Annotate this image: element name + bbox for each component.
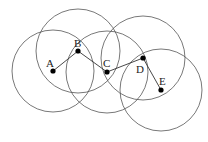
edge-a-b [53, 51, 78, 71]
node-e [158, 87, 163, 92]
node-a [50, 68, 55, 73]
node-b [75, 48, 80, 53]
node-label-c: C [103, 57, 110, 69]
node-label-e: E [159, 75, 166, 87]
node-label-a: A [46, 57, 54, 69]
node-d [140, 55, 145, 60]
node-c [104, 69, 109, 74]
coverage-diagram: ABCDE [0, 0, 208, 142]
nodes [50, 48, 163, 92]
node-label-d: D [136, 63, 144, 75]
node-label-b: B [74, 37, 81, 49]
